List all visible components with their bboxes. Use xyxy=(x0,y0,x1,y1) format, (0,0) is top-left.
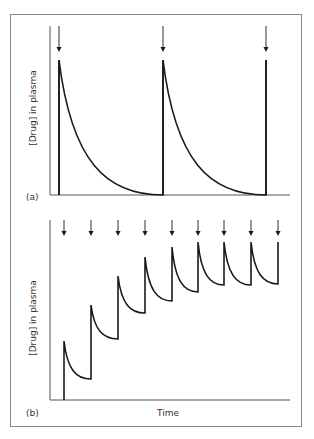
figure-caption-clipped xyxy=(10,431,310,439)
concentration-curve xyxy=(59,60,266,195)
dose-arrow-icon xyxy=(161,47,166,52)
panel-b-x-axis-label: Time xyxy=(157,408,179,418)
dose-arrow-icon xyxy=(116,231,121,236)
panel-a-y-axis-label: [Drug] in plasma xyxy=(28,70,38,146)
dose-arrow-icon xyxy=(222,231,227,236)
dose-arrow-icon xyxy=(196,231,201,236)
plot-area xyxy=(0,0,314,439)
dose-arrow-icon xyxy=(249,231,254,236)
dose-arrow-icon xyxy=(89,231,94,236)
figure: [Drug] in plasma (a) [Drug] in plasma (b… xyxy=(0,0,314,439)
panel-a-label: (a) xyxy=(26,192,39,202)
panel-b-y-axis-label: [Drug] in plasma xyxy=(28,280,38,356)
panel-b-label: (b) xyxy=(26,408,39,418)
dose-arrow-icon xyxy=(276,231,281,236)
dose-arrow-icon xyxy=(62,231,67,236)
dose-arrow-icon xyxy=(170,231,175,236)
dose-arrow-icon xyxy=(57,47,62,52)
panel-b-chart xyxy=(50,220,290,400)
concentration-curve xyxy=(64,242,278,400)
dose-arrow-icon xyxy=(264,47,269,52)
panel-a-chart xyxy=(50,26,290,195)
dose-arrow-icon xyxy=(143,231,148,236)
